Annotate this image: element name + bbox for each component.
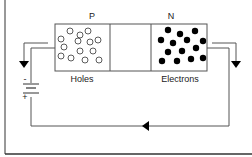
arrow-left-icon bbox=[142, 121, 149, 131]
pn-junction-diagram: P N Holes Electrons - + bbox=[0, 0, 252, 157]
n-region-label: N bbox=[168, 11, 175, 21]
arrow-down-right-icon bbox=[231, 61, 241, 68]
electrons-label: Electrons bbox=[161, 74, 199, 84]
p-region-label: P bbox=[89, 11, 95, 21]
semiconductor-block bbox=[55, 24, 207, 71]
holes-label: Holes bbox=[70, 74, 94, 84]
arrow-down-left-icon bbox=[19, 61, 29, 68]
battery-minus-label: - bbox=[24, 74, 27, 84]
outer-frame bbox=[5, 0, 252, 154]
battery-plus-label: + bbox=[22, 92, 27, 102]
